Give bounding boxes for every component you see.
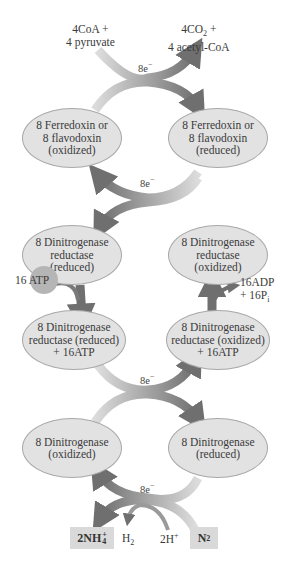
node-reductase-atp-reduced: 8 Dinitrogenasereductase (reduced)+ 16AT… xyxy=(22,310,126,370)
label-acetylcoa: 4CO2 + 4 acetyl-CoA xyxy=(168,23,230,53)
product-hydrogen: H2 xyxy=(122,532,134,550)
label-atp: 16 ATP xyxy=(15,274,49,287)
label-pyruvate-line2: 4 pyruvate xyxy=(66,36,115,49)
electrons-label-3: 8e− xyxy=(140,372,154,386)
substrate-protons: 2H+ xyxy=(160,530,179,545)
label-acetylcoa-line2: 4 acetyl-CoA xyxy=(168,41,230,54)
electrons-label-1: 8e− xyxy=(138,60,152,74)
label-adp-pi: 16ADP + 16Pi xyxy=(240,276,275,306)
label-pyruvate: 4CoA + 4 pyruvate xyxy=(66,23,115,48)
arrow-dinitrogenase-ox-to-red xyxy=(95,394,198,422)
arrow-to-hydrogen xyxy=(128,505,168,530)
node-dinitrogenase-oxidized: 8 Dinitrogenase(oxidized) xyxy=(22,418,122,478)
substrate-nitrogen: N2 xyxy=(190,527,218,549)
node-reductase-atp-oxidized: 8 Dinitrogenasereductase (oxidized)+ 16A… xyxy=(166,310,270,370)
arrow-ferredoxin-ox-to-red xyxy=(95,82,198,110)
label-pyruvate-line1: 4CoA + xyxy=(66,23,115,36)
node-ferredoxin-oxidized: 8 Ferredoxin or8 flavodoxin(oxidized) xyxy=(22,108,122,168)
product-ammonium: 2NH+4 xyxy=(70,527,114,549)
arrow-atp-binding xyxy=(55,283,78,300)
node-ferredoxin-reduced: 8 Ferredoxin or8 flavodoxin(reduced) xyxy=(168,108,268,168)
node-dinitrogenase-reduced: 8 Dinitrogenase(reduced) xyxy=(168,418,268,478)
label-co2: 4CO2 + xyxy=(168,23,230,41)
arrow-adp-release xyxy=(214,286,234,300)
electrons-label-4: 8e− xyxy=(140,481,154,495)
electrons-label-2: 8e− xyxy=(140,175,154,189)
